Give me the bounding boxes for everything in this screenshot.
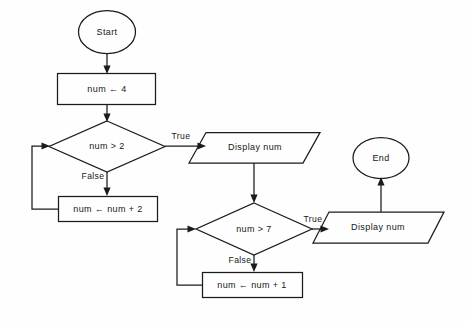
node-init[interactable]: num ← 4	[58, 74, 156, 105]
edge-out2-to-end	[377, 177, 384, 212]
edge-init-to-cond1	[103, 105, 110, 122]
edge-label-cond2-false: False	[228, 255, 251, 265]
start-label: Start	[96, 27, 117, 37]
node-out2[interactable]: Display num	[313, 212, 444, 243]
node-cond1[interactable]: num > 2	[49, 121, 165, 172]
node-out1[interactable]: Display num	[189, 133, 320, 164]
cond1-label: num > 2	[89, 141, 125, 151]
edge-out1-to-cond2	[250, 163, 257, 203]
incr1-label: num ← num + 1	[217, 280, 286, 290]
incr2-label: num ← num + 2	[73, 204, 142, 214]
edge-label-cond2-true: True	[304, 214, 323, 224]
cond2-label: num > 7	[236, 224, 272, 234]
edge-incr1-to-cond2-loopback	[177, 225, 202, 285]
out2-label: Display num	[351, 222, 405, 232]
node-incr1[interactable]: num ← num + 1	[203, 273, 303, 298]
node-cond2[interactable]: num > 7	[196, 203, 312, 255]
init-label: num ← 4	[87, 84, 126, 94]
edge-start-to-init	[103, 54, 110, 74]
node-end[interactable]: End	[353, 138, 409, 179]
flowchart-svg: Start num ← 4 num > 2 num ← num + 2 Disp…	[0, 0, 467, 323]
edge-incr2-to-cond1-loopback	[32, 142, 58, 209]
node-start[interactable]: Start	[79, 11, 136, 54]
flowchart-canvas: Start num ← 4 num > 2 num ← num + 2 Disp…	[0, 0, 467, 323]
node-incr2[interactable]: num ← num + 2	[59, 197, 158, 222]
edge-label-cond1-true: True	[172, 131, 191, 141]
end-label: End	[372, 153, 389, 163]
edge-label-cond1-false: False	[81, 171, 104, 181]
out1-label: Display num	[228, 142, 282, 152]
